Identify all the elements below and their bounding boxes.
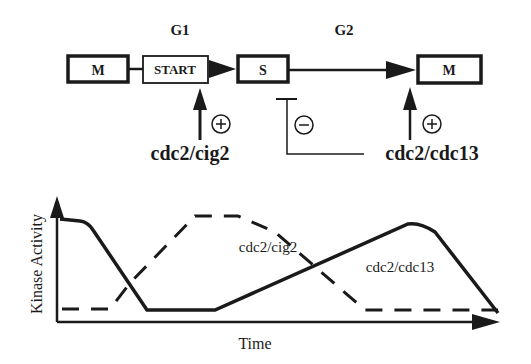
cdc13-minus-icon [295,116,313,134]
cell-cycle-diagram: G1 G2 M START S M cdc2/cig2 [0,0,531,364]
cdc13-activation-arrow [403,87,417,140]
series-cig2-label: cdc2/cig2 [239,239,297,255]
phase-g2-label: G2 [334,22,353,38]
box-m-left: M [68,56,128,82]
arrow-s-to-m-icon [386,61,416,79]
cdc13-plus-icon [423,115,441,133]
cig2-activation-arrow [193,88,207,140]
box-s-label: S [259,63,267,78]
cdc13-inhibition-line [276,99,364,154]
x-axis-label: Time [238,335,271,352]
y-axis-arrow-icon [50,196,64,218]
box-start: START [143,56,208,83]
box-m-left-label: M [91,63,104,78]
box-start-label: START [154,62,196,77]
y-axis-label: Kinase Activity [28,214,46,314]
arrow-start-to-s-icon [209,60,236,78]
cig2-plus-icon [212,115,230,133]
cig2-regulator-label: cdc2/cig2 [151,142,230,165]
cdc13-regulator-label: cdc2/cdc13 [385,142,478,164]
box-s: S [238,56,288,82]
x-axis-arrow-icon [472,314,500,330]
series-cdc13-label: cdc2/cdc13 [366,259,434,275]
box-m-right-label: M [442,63,455,78]
kinase-graph: cdc2/cig2 cdc2/cdc13 Kinase Activity Tim… [28,196,500,352]
box-m-right: M [418,56,481,83]
phase-g1-label: G1 [170,22,189,38]
